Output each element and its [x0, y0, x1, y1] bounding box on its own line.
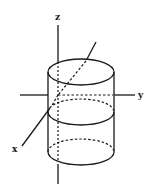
y-axis-label: y: [137, 90, 144, 100]
x-axis-far-end: [87, 42, 96, 59]
cylinder-axes-diagram: z y x: [0, 0, 153, 191]
x-axis-hidden-lower: [51, 95, 58, 107]
x-axis-label: x: [12, 144, 18, 154]
z-axis: z: [55, 12, 60, 184]
x-axis-hidden-upper: [58, 61, 86, 95]
x-axis-near-end: [22, 108, 50, 146]
y-axis: y: [20, 90, 144, 100]
z-axis-label: z: [55, 12, 60, 22]
